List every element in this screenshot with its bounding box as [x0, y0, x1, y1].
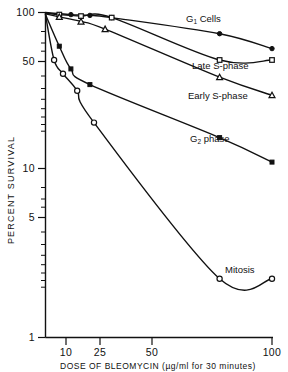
datapoint-g1-cells	[217, 32, 221, 36]
survival-curve-chart: 100 50 10 5 1 PERCENT SURVIVAL 10 25 50 …	[0, 0, 288, 372]
datapoint-mitosis	[52, 57, 57, 62]
datapoint-g2-phase	[88, 83, 92, 87]
x-axis-tick-labels: 10 25 50 100	[60, 346, 282, 358]
y-axis-ticks	[38, 13, 46, 338]
datapoint-g2-phase	[270, 160, 274, 164]
y-tick-label-100: 100	[16, 6, 35, 18]
series-curves	[46, 13, 273, 291]
series-label-mitosis: Mitosis	[225, 264, 255, 275]
datapoint-early-s-phase	[217, 74, 223, 80]
series-label-g2-phase: G2 phase	[190, 133, 230, 145]
y-tick-label-5: 5	[29, 211, 35, 223]
datapoint-g1-cells	[270, 46, 274, 50]
datapoint-g2-phase	[69, 67, 73, 71]
y-axis-title: PERCENT SURVIVAL	[6, 136, 16, 244]
datapoint-early-s-phase	[269, 92, 275, 98]
datapoint-mitosis	[60, 71, 65, 76]
x-tick-label-50: 50	[146, 346, 158, 358]
y-tick-label-50: 50	[23, 55, 35, 67]
x-tick-label-10: 10	[60, 346, 72, 358]
datapoint-early-s-phase	[78, 19, 84, 25]
datapoint-mitosis	[75, 88, 80, 93]
g1-label-text: Cells	[200, 13, 221, 24]
g2-label-text: phase	[204, 133, 230, 144]
series-label-late-s-phase: Late S-phase	[192, 60, 249, 71]
x-axis-ticks	[66, 338, 272, 346]
curve-mitosis	[46, 15, 273, 291]
x-tick-label-100: 100	[263, 346, 282, 358]
x-axis-title: DOSE OF BLEOMYCIN (µg/ml for 30 minutes)	[60, 361, 256, 371]
datapoint-early-s-phase	[102, 26, 108, 32]
datapoint-g1-cells	[69, 12, 73, 16]
datapoint-late-s-phase	[109, 15, 114, 20]
x-tick-label-25: 25	[94, 346, 106, 358]
datapoint-g2-phase	[57, 44, 61, 48]
chart-figure: 100 50 10 5 1 PERCENT SURVIVAL 10 25 50 …	[0, 0, 288, 372]
g1-label-prefix: G	[186, 13, 193, 24]
datapoint-g1-cells	[88, 13, 92, 17]
y-tick-label-1: 1	[29, 331, 35, 343]
curve-early-s-phase	[46, 14, 273, 95]
y-tick-label-10: 10	[23, 162, 35, 174]
series-label-g1-cells: G1 Cells	[186, 13, 221, 25]
datapoint-mitosis	[269, 276, 274, 281]
g2-label-prefix: G	[190, 133, 197, 144]
y-axis-tick-labels: 100 50 10 5 1	[16, 6, 35, 343]
datapoint-mitosis	[91, 120, 96, 125]
datapoint-late-s-phase	[270, 58, 275, 63]
datapoint-mitosis	[217, 276, 222, 281]
series-label-early-s-phase: Early S-phase	[188, 90, 248, 101]
